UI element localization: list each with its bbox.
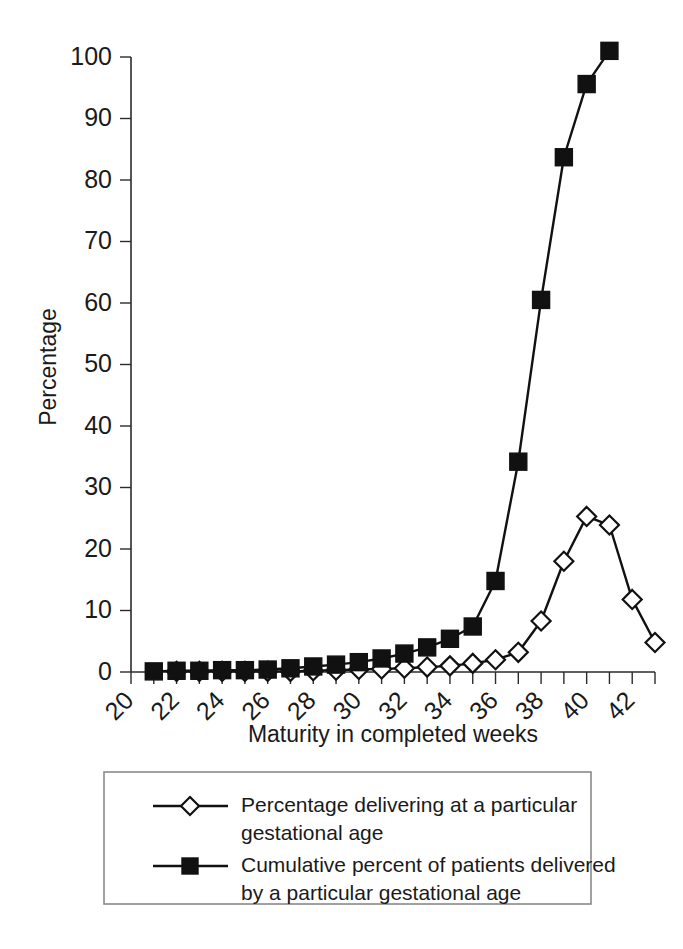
y-tick-label: 10 xyxy=(84,595,112,623)
x-axis-title: Maturity in completed weeks xyxy=(248,721,538,747)
data-point-marker xyxy=(601,42,618,59)
y-tick-label: 40 xyxy=(84,411,112,439)
data-point-marker xyxy=(463,654,482,673)
data-point-marker xyxy=(350,654,367,671)
y-tick-label: 50 xyxy=(84,349,112,377)
x-tick-label: 40 xyxy=(555,686,594,725)
y-tick-label: 20 xyxy=(84,534,112,562)
data-point-marker xyxy=(623,590,642,609)
series-percentage xyxy=(167,507,664,681)
data-point-marker xyxy=(168,662,185,679)
x-tick-label: 34 xyxy=(418,686,458,726)
chart-figure: Percentage 0102030405060708090100 202224… xyxy=(0,0,683,949)
x-tick-label: 42 xyxy=(600,686,639,725)
data-point-marker xyxy=(554,552,573,571)
y-tick-label: 90 xyxy=(84,103,112,131)
legend-label-2-line-2: by a particular gestational age xyxy=(241,881,521,904)
axes xyxy=(131,57,655,672)
y-tick-label: 80 xyxy=(84,165,112,193)
data-point-marker xyxy=(487,572,504,589)
y-tick-group: 0102030405060708090100 xyxy=(70,42,131,685)
data-point-marker xyxy=(373,650,390,667)
data-point-marker xyxy=(145,663,162,680)
data-point-marker xyxy=(305,658,322,675)
data-point-marker xyxy=(418,658,437,677)
x-tick-label: 36 xyxy=(464,686,503,725)
series-cumulative xyxy=(145,42,618,680)
x-tick-label: 32 xyxy=(372,686,411,725)
series-path xyxy=(177,516,655,671)
data-point-marker xyxy=(282,660,299,677)
y-tick-label: 30 xyxy=(84,472,112,500)
x-tick-label: 24 xyxy=(190,686,230,726)
chart-legend: Percentage delivering at a particular ge… xyxy=(104,772,616,904)
data-point-marker xyxy=(646,633,665,652)
data-point-marker xyxy=(214,662,231,679)
series-path xyxy=(154,51,610,672)
y-tick-label: 60 xyxy=(84,288,112,316)
series-layer xyxy=(145,42,664,681)
data-point-marker xyxy=(532,611,551,630)
data-point-marker xyxy=(441,630,458,647)
legend-label-2-line-1: Cumulative percent of patients delivered xyxy=(241,853,616,876)
data-point-marker xyxy=(191,662,208,679)
data-point-marker xyxy=(600,516,619,535)
x-tick-label: 30 xyxy=(327,686,366,725)
data-point-marker xyxy=(259,661,276,678)
gestational-age-line-chart: Percentage 0102030405060708090100 202224… xyxy=(0,0,683,949)
x-tick-label: 38 xyxy=(509,686,548,725)
data-point-marker xyxy=(236,662,253,679)
data-point-marker xyxy=(486,650,505,669)
data-point-marker xyxy=(396,645,413,662)
x-tick-group: 202224262830323436384042 xyxy=(99,672,655,725)
data-point-marker xyxy=(419,639,436,656)
data-point-marker xyxy=(533,291,550,308)
filled-square-icon xyxy=(182,858,198,874)
legend-label-1-line-1: Percentage delivering at a particular xyxy=(241,793,577,816)
data-point-marker xyxy=(510,453,527,470)
y-tick-label: 100 xyxy=(70,42,112,70)
x-tick-label: 22 xyxy=(145,686,184,725)
data-point-marker xyxy=(464,618,481,635)
y-tick-label: 0 xyxy=(98,657,112,685)
data-point-marker xyxy=(578,76,595,93)
y-tick-label: 70 xyxy=(84,226,112,254)
data-point-marker xyxy=(577,507,596,526)
x-tick-label: 28 xyxy=(281,686,320,725)
x-tick-label: 20 xyxy=(99,686,138,725)
legend-label-1-line-2: gestational age xyxy=(241,821,383,844)
data-point-marker xyxy=(328,656,345,673)
x-tick-label: 26 xyxy=(236,686,275,725)
data-point-marker xyxy=(555,149,572,166)
data-point-marker xyxy=(509,643,528,662)
y-axis-title: Percentage xyxy=(35,308,61,426)
